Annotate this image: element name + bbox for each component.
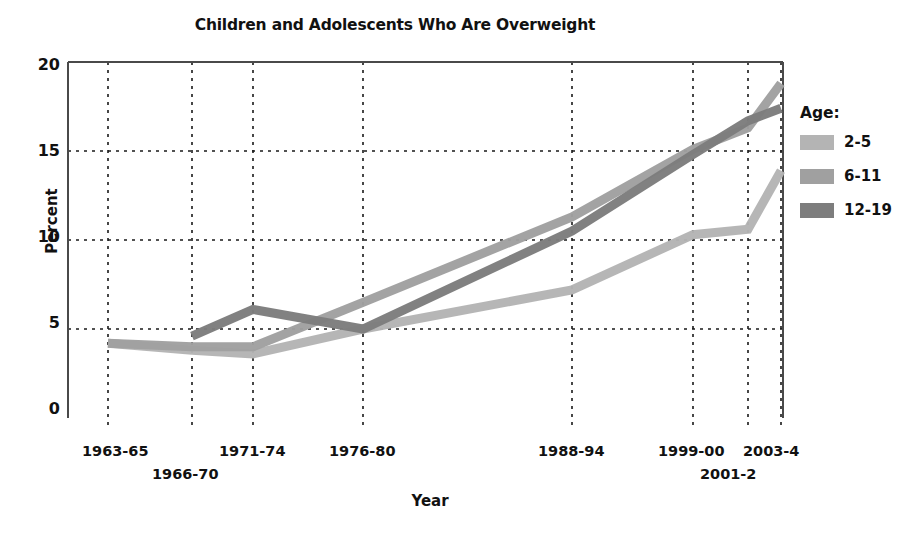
legend-label-12-19: 12-19 [844,201,892,219]
legend-item-6-11: 6-11 [800,167,915,185]
plot-area [0,0,920,535]
legend-swatch-12-19 [800,203,834,218]
legend-item-2-5: 2-5 [800,133,915,151]
legend-label-6-11: 6-11 [844,167,882,185]
series-line-6-11 [108,83,781,346]
legend-item-12-19: 12-19 [800,201,915,219]
legend-swatch-2-5 [800,135,834,150]
legend-label-2-5: 2-5 [844,133,871,151]
chart-container: Children and Adolescents Who Are Overwei… [0,0,920,535]
legend-title: Age: [800,104,915,122]
legend-swatch-6-11 [800,169,834,184]
legend: Age: 2-5 6-11 12-19 [800,104,915,235]
